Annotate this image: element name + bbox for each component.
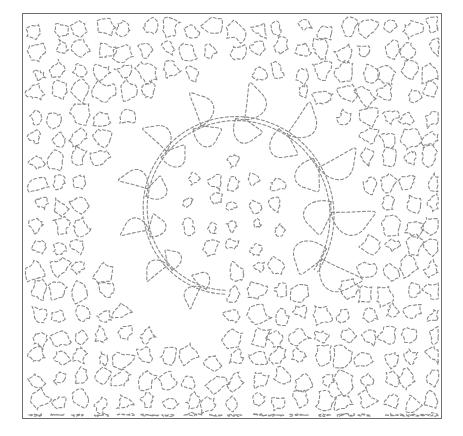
stipple-loop xyxy=(424,239,438,256)
stipple-loop xyxy=(74,217,91,237)
stipple-loop xyxy=(359,108,378,127)
stipple-loop xyxy=(382,147,396,167)
stipple-loop xyxy=(251,23,266,39)
stipple-loop xyxy=(47,150,63,171)
stipple-loop xyxy=(253,218,261,227)
stipple-loop xyxy=(292,348,307,362)
stipple-loop xyxy=(386,303,399,317)
stipple-loop xyxy=(90,151,110,166)
stipple-loop xyxy=(53,372,66,384)
stipple-loop xyxy=(254,372,269,389)
stipple-loop xyxy=(269,414,284,416)
stipple-loop xyxy=(186,66,199,82)
stipple-loop xyxy=(228,177,240,192)
stipple-loop xyxy=(269,347,286,365)
stipple-loop xyxy=(378,66,396,85)
stipple-loop xyxy=(358,286,371,303)
stipple-loop xyxy=(342,17,358,37)
stipple-loop xyxy=(423,260,438,278)
stipple-loop xyxy=(141,81,155,98)
feather-plume xyxy=(331,202,376,236)
stipple-loop xyxy=(210,192,222,204)
stipple-loop xyxy=(270,178,286,190)
stipple-loop xyxy=(293,390,308,408)
stipple-loop xyxy=(32,240,46,254)
stipple-loop xyxy=(92,263,113,283)
stipple-loop xyxy=(28,155,45,169)
stipple-loop xyxy=(251,328,270,348)
stipple-loop xyxy=(183,197,194,207)
stipple-loop xyxy=(138,43,153,58)
stipple-loop xyxy=(249,200,262,213)
stipple-loop xyxy=(317,26,332,40)
stipple-loop xyxy=(50,257,71,278)
stipple-loop xyxy=(407,194,421,213)
stipple-loop xyxy=(363,64,379,83)
stipple-loop xyxy=(183,218,195,236)
stipple-loop xyxy=(251,67,267,80)
stipple-loop xyxy=(76,330,89,345)
stipple-loop xyxy=(337,109,351,124)
stipple-loop xyxy=(406,395,423,412)
stipple-loop xyxy=(205,376,229,394)
stipple-loop xyxy=(164,61,182,79)
stipple-loop xyxy=(313,38,328,60)
stipple-loop xyxy=(337,414,354,417)
stipple-loop xyxy=(361,373,374,389)
stipple-loop xyxy=(226,396,237,412)
stipple-loop xyxy=(420,217,438,235)
stipple-loop xyxy=(253,393,265,407)
stipple-loop xyxy=(381,215,400,236)
stipple-loop xyxy=(385,239,400,252)
stipple-loop xyxy=(208,174,221,191)
stipple-loop xyxy=(203,240,220,256)
stipple-loop xyxy=(384,20,397,33)
stipple-loop xyxy=(420,413,438,417)
stipple-loop xyxy=(424,346,438,364)
stipple-background xyxy=(25,17,439,417)
stipple-loop xyxy=(118,326,132,340)
stipple-loop xyxy=(429,327,438,345)
stipple-loop xyxy=(208,414,222,416)
stipple-loop xyxy=(94,414,109,417)
stipple-loop xyxy=(53,243,66,255)
stipple-loop xyxy=(339,279,360,300)
stipple-loop xyxy=(334,370,354,396)
stipple-loop xyxy=(384,394,399,408)
stipple-loop xyxy=(336,309,349,323)
stipple-loop xyxy=(363,308,378,322)
feather-plume xyxy=(118,169,148,196)
stipple-loop xyxy=(376,84,392,100)
stipple-loop xyxy=(409,283,420,298)
stipple-loop xyxy=(296,69,308,86)
stipple-loop xyxy=(48,282,67,300)
stipple-loop xyxy=(403,20,424,38)
stipple-loop xyxy=(117,395,134,408)
stipple-loop xyxy=(379,133,395,147)
stipple-loop xyxy=(53,175,66,190)
stipple-loop xyxy=(54,198,69,216)
stipple-loop xyxy=(403,305,422,319)
stipple-loop xyxy=(140,414,159,416)
stipple-loop xyxy=(140,393,154,408)
stipple-loop xyxy=(139,371,158,391)
stipple-loop xyxy=(69,197,90,214)
stipple-loop xyxy=(68,128,87,147)
stipple-loop xyxy=(250,243,262,255)
stipple-loop xyxy=(334,394,353,411)
stipple-loop xyxy=(76,306,90,322)
stipple-loop xyxy=(226,239,239,249)
stipple-loop xyxy=(274,366,291,384)
stipple-loop xyxy=(386,370,400,386)
stipple-loop xyxy=(409,89,423,102)
stipple-loop xyxy=(73,175,86,189)
stipple-loop xyxy=(71,79,89,103)
stipple-loop xyxy=(162,398,179,409)
stipple-loop xyxy=(248,352,267,365)
stipple-loop xyxy=(399,112,415,125)
stipple-loop xyxy=(404,349,418,364)
stipple-loop xyxy=(228,415,242,417)
stipple-loop xyxy=(385,414,404,416)
stipple-loop xyxy=(114,65,132,78)
stipple-loop xyxy=(205,44,218,59)
